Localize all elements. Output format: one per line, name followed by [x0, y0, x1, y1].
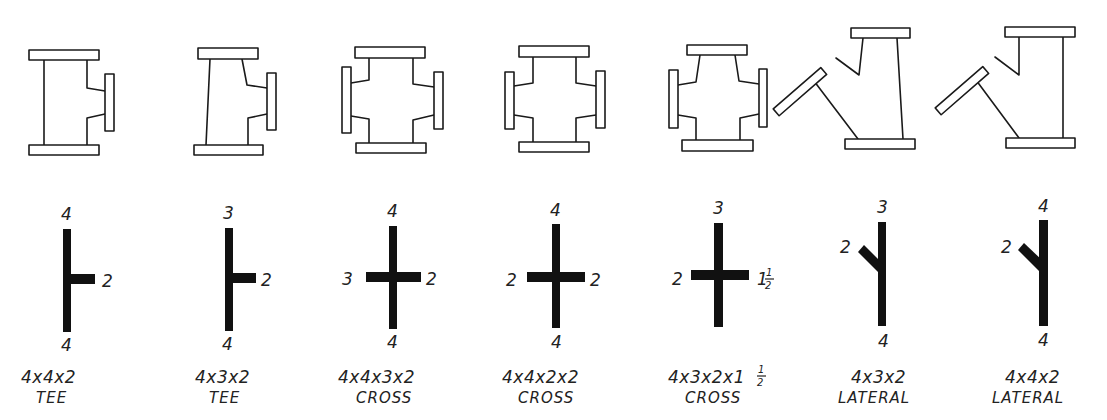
right-branch-flange: [596, 71, 605, 128]
end-size-bottom: 4: [61, 335, 72, 355]
fitting-size-label: 4x3x2: [195, 367, 250, 387]
end-size-top: 4: [387, 201, 398, 221]
end-size-top: 4: [550, 200, 561, 220]
end-size-branch: 2: [1001, 237, 1012, 257]
end-size-bottom: 4: [387, 332, 398, 352]
end-size-bottom: 4: [1038, 330, 1049, 350]
top-flange: [519, 46, 589, 57]
top-flange: [198, 48, 258, 59]
fitting-cross-4x4x3x2: 4 3 2 4 4x4x3x2 CROSS: [338, 47, 443, 407]
fraction-numerator: 1: [766, 267, 772, 278]
end-size-left: 3: [342, 269, 353, 289]
fitting-type-label: CROSS: [356, 389, 412, 407]
pictorial-lateral-drawing: [935, 27, 1075, 148]
top-flange: [851, 28, 910, 38]
fitting-size-label: 4x4x3x2: [338, 367, 415, 387]
end-size-branch: 2: [102, 271, 113, 291]
fitting-type-label: TEE: [36, 389, 67, 407]
fitting-tee-4x3x2: 3 2 4 4x3x2 TEE: [194, 48, 276, 407]
pictorial-tee-drawing: [29, 50, 114, 155]
end-size-bottom: 4: [551, 332, 562, 352]
end-size-branch: 2: [840, 237, 851, 257]
top-flange: [355, 47, 425, 58]
fitting-type-label: TEE: [209, 389, 240, 407]
fitting-lateral-4x3x2: 3 2 4 4x3x2 LATERAL: [773, 28, 915, 407]
fitting-type-label: CROSS: [518, 389, 574, 407]
end-size-left: 2: [506, 270, 517, 290]
end-size-top: 3: [877, 197, 888, 217]
fitting-lateral-4x4x2: 4 2 4 4x4x2 LATERAL: [935, 27, 1075, 407]
pictorial-cross-drawing: [342, 47, 443, 153]
single-line-cross-symbol: [366, 226, 421, 329]
top-flange: [1005, 27, 1075, 37]
bottom-flange: [356, 143, 426, 153]
end-size-branch: 2: [261, 270, 272, 290]
single-line-lateral-symbol: [858, 222, 886, 326]
end-size-top: 4: [1038, 196, 1049, 216]
branch-flange: [105, 74, 114, 131]
single-line-cross-symbol: [691, 223, 749, 327]
single-line-lateral-symbol: [1018, 220, 1048, 326]
bottom-flange: [845, 139, 915, 149]
end-size-right: 2: [590, 270, 601, 290]
left-branch-flange: [505, 72, 514, 129]
fitting-size-label: 4x4x2: [1005, 367, 1060, 387]
bottom-flange: [1006, 138, 1075, 148]
fitting-tee-4x4x2: 4 2 4 4x4x2 TEE: [21, 50, 114, 407]
single-line-tee-symbol: [63, 229, 95, 332]
svg-text:1: 1: [758, 364, 764, 375]
right-branch-flange: [759, 69, 767, 127]
left-branch-flange: [669, 70, 678, 128]
fitting-type-label: CROSS: [685, 389, 741, 407]
pictorial-cross-drawing: [669, 45, 767, 151]
bottom-flange: [29, 145, 99, 155]
top-flange: [29, 50, 99, 60]
end-size-bottom: 4: [222, 334, 233, 354]
fitting-size-label: 4x4x2: [21, 367, 76, 387]
fittings-sheet: 4 2 4 4x4x2 TEE 3 2 4 4x3x2 TEE: [0, 0, 1107, 420]
bottom-flange: [682, 140, 753, 151]
end-size-top: 3: [713, 198, 724, 218]
fitting-cross-4x4x2x2: 4 2 2 4 4x4x2x2 CROSS: [502, 46, 605, 407]
branch-flange: [773, 68, 826, 116]
branch-flange: [935, 67, 988, 115]
pictorial-tee-drawing: [194, 48, 276, 155]
fitting-type-label: LATERAL: [992, 389, 1064, 407]
single-line-cross-symbol: [527, 224, 585, 328]
end-size-top: 3: [223, 203, 234, 223]
single-line-tee-symbol: [225, 228, 256, 331]
svg-text:2: 2: [757, 377, 763, 388]
end-size-right: 1 1 2: [757, 267, 774, 291]
end-size-top: 4: [61, 204, 72, 224]
fitting-size-label: 4x3x2x1 1 2: [668, 364, 766, 388]
fitting-size-label: 4x3x2: [851, 367, 906, 387]
end-size-right: 2: [426, 269, 437, 289]
right-branch-flange: [434, 72, 443, 129]
svg-text:4x3x2x1: 4x3x2x1: [668, 367, 745, 387]
pictorial-cross-drawing: [505, 46, 605, 152]
left-branch-flange: [342, 67, 351, 133]
bottom-flange: [194, 145, 263, 155]
end-size-bottom: 4: [878, 331, 889, 351]
branch-flange: [267, 73, 276, 130]
bottom-flange: [519, 142, 589, 152]
top-flange: [687, 45, 747, 55]
pictorial-lateral-drawing: [773, 28, 915, 149]
fitting-cross-4x3x2x1half: 3 2 1 1 2 4x3x2x1 1 2 CROSS: [668, 45, 774, 407]
fitting-type-label: LATERAL: [838, 389, 910, 407]
fraction-denominator: 2: [765, 280, 771, 291]
end-size-left: 2: [672, 269, 683, 289]
fitting-size-label: 4x4x2x2: [502, 367, 579, 387]
